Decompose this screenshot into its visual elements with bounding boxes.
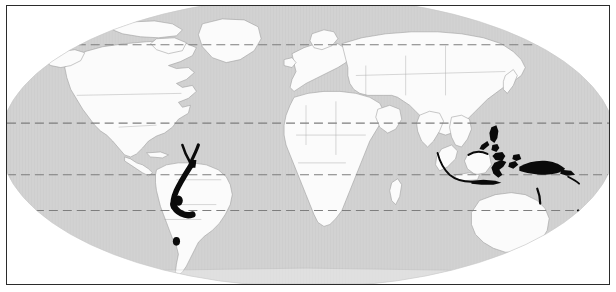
world-map-svg xyxy=(7,6,609,284)
distribution-map-figure xyxy=(0,0,616,292)
distribution-dot-central-chile xyxy=(173,237,180,246)
distribution-dot-bolivia xyxy=(174,195,183,205)
map-frame xyxy=(6,5,610,285)
globe-disc xyxy=(7,6,609,284)
